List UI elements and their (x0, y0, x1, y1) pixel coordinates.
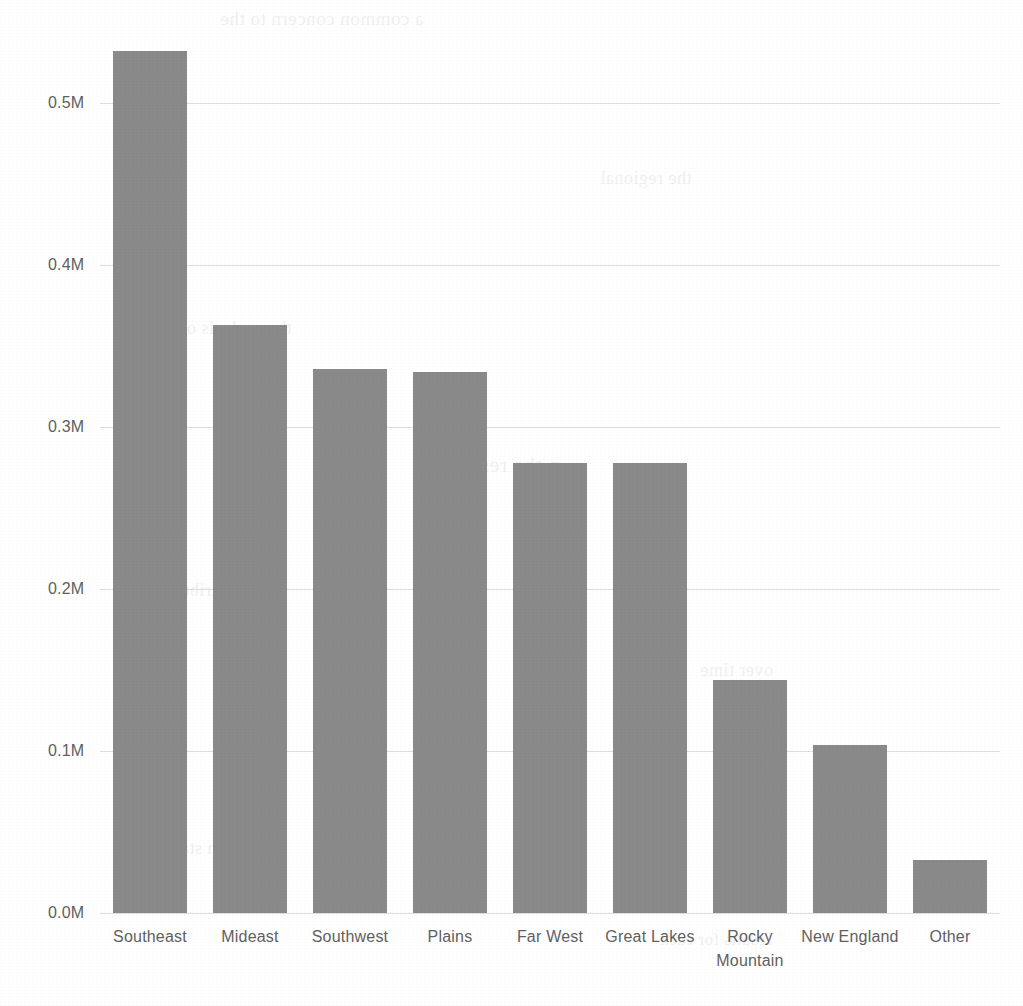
x-axis-tick-label: Other (900, 925, 1000, 949)
plot-area (100, 40, 1000, 913)
y-axis-tick-label: 0.2M (48, 580, 84, 598)
x-axis-tick-label: New England (800, 925, 900, 949)
bar[interactable] (313, 369, 387, 913)
bar-series (100, 40, 1000, 913)
y-axis-tick-label: 0.3M (48, 418, 84, 436)
y-axis-tick-label: 0.0M (48, 904, 84, 922)
y-axis-tick-label: 0.4M (48, 256, 84, 274)
bar[interactable] (513, 463, 587, 913)
bar[interactable] (113, 51, 187, 913)
bar[interactable] (913, 860, 987, 913)
bar[interactable] (613, 463, 687, 913)
x-axis-tick-label: Southwest (300, 925, 400, 949)
gridline (100, 913, 1000, 914)
x-axis: SoutheastMideastSouthwestPlainsFar WestG… (100, 925, 1000, 995)
bar-chart: 0.5M0.4M0.3M0.2M0.1M0.0M SoutheastMideas… (0, 0, 1023, 1006)
x-axis-tick-label: Great Lakes (600, 925, 700, 949)
bar[interactable] (413, 372, 487, 913)
bar[interactable] (213, 325, 287, 913)
x-axis-tick-label: Mideast (200, 925, 300, 949)
x-axis-tick-label: Rocky Mountain (700, 925, 800, 973)
bar[interactable] (713, 680, 787, 913)
bar[interactable] (813, 745, 887, 913)
x-axis-tick-label: Plains (400, 925, 500, 949)
y-axis-tick-label: 0.5M (48, 94, 84, 112)
y-axis: 0.5M0.4M0.3M0.2M0.1M0.0M (0, 0, 100, 1006)
x-axis-tick-label: Southeast (100, 925, 200, 949)
y-axis-tick-label: 0.1M (48, 742, 84, 760)
x-axis-tick-label: Far West (500, 925, 600, 949)
